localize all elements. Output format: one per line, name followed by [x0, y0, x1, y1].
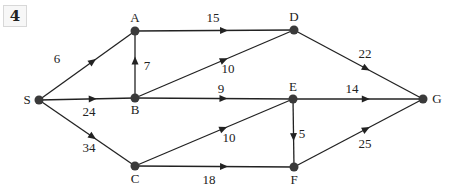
edge-s-b: [39, 98, 135, 100]
node-label-g: G: [432, 91, 441, 106]
edge-d-g: [294, 30, 423, 99]
edge-c-e: [135, 99, 293, 166]
arrowhead-b-a-icon: [132, 56, 139, 64]
node-label-c: C: [131, 171, 140, 186]
edge-f-g: [294, 99, 423, 167]
arrowhead-s-b-icon: [89, 95, 97, 102]
edge-weight-a-d: 15: [207, 10, 220, 25]
edge-b-d: [135, 30, 294, 98]
node-e: [289, 95, 298, 104]
node-d: [290, 26, 299, 35]
edge-weight-s-a: 6: [54, 51, 61, 66]
edge-weight-s-b: 24: [83, 104, 97, 119]
node-label-a: A: [130, 10, 140, 25]
arrowhead-a-d-icon: [220, 27, 228, 34]
edge-weight-e-g: 14: [346, 81, 360, 96]
arrowhead-e-g-icon: [362, 96, 370, 103]
node-c: [131, 162, 140, 171]
edge-weight-b-a: 7: [144, 58, 151, 73]
network-graph: 6243471510910185221425SABCDEFG: [0, 0, 453, 193]
node-label-d: D: [289, 9, 298, 24]
node-label-s: S: [23, 92, 30, 107]
edge-c-f: [135, 166, 294, 167]
edge-weight-e-f: 5: [299, 126, 306, 141]
edge-weight-s-c: 34: [83, 140, 97, 155]
node-g: [419, 95, 428, 104]
node-label-f: F: [290, 172, 297, 187]
edge-weight-c-f: 18: [203, 172, 216, 187]
edge-weight-b-d: 10: [222, 61, 235, 76]
arrowhead-b-e-icon: [219, 95, 227, 102]
node-label-b: B: [131, 102, 140, 117]
edge-weight-d-g: 22: [359, 46, 372, 61]
edge-b-e: [135, 98, 293, 99]
edge-e-f: [293, 99, 294, 167]
arrowhead-e-f-icon: [290, 133, 297, 141]
edge-a-d: [135, 30, 294, 31]
edge-weight-f-g: 25: [359, 136, 372, 151]
arrowhead-c-f-icon: [220, 163, 228, 170]
arrowhead-s-c-icon: [87, 132, 96, 139]
arrowhead-s-a-icon: [87, 59, 96, 67]
edge-weight-c-e: 10: [223, 130, 236, 145]
node-s: [35, 96, 44, 105]
edge-weight-b-e: 9: [218, 81, 225, 96]
node-a: [131, 27, 140, 36]
node-label-e: E: [289, 79, 297, 94]
node-f: [290, 163, 299, 172]
